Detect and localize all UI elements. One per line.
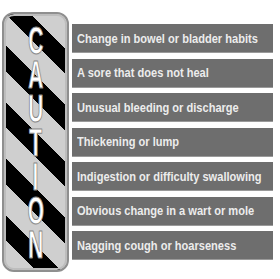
warning-sign-item: Change in bowel or bladder habits (72, 24, 273, 53)
warning-sign-text: Obvious change in a wart or mole (77, 203, 254, 218)
caution-letter: I (33, 160, 39, 194)
warning-sign-text: Unusual bleeding or discharge (77, 100, 239, 115)
caution-letter: A (28, 58, 43, 92)
caution-letter: T (29, 126, 42, 160)
caution-letter: O (27, 194, 43, 228)
warning-sign-item: Indigestion or difficulty swallowing (72, 162, 273, 191)
warning-sign-text: Indigestion or difficulty swallowing (77, 169, 262, 184)
warning-sign-text: A sore that does not heal (77, 65, 209, 80)
caution-letter: N (28, 228, 43, 262)
warning-sign-item: Nagging cough or hoarseness (72, 231, 273, 260)
caution-letter: U (28, 92, 43, 126)
caution-letter: C (28, 24, 43, 58)
warning-sign-item: Unusual bleeding or discharge (72, 93, 273, 122)
warning-sign-text: Nagging cough or hoarseness (77, 238, 236, 253)
warning-sign-item: Thickening or lump (72, 128, 273, 157)
warning-sign-text: Change in bowel or bladder habits (77, 31, 258, 46)
warning-sign-item: Obvious change in a wart or mole (72, 197, 273, 226)
warning-sign-text: Thickening or lump (77, 134, 179, 149)
caution-striped-banner: C A U T I O N (2, 12, 69, 272)
warning-signs-list: Change in bowel or bladder habits A sore… (72, 24, 273, 266)
warning-sign-item: A sore that does not heal (72, 59, 273, 88)
caution-word: C A U T I O N (4, 24, 67, 260)
